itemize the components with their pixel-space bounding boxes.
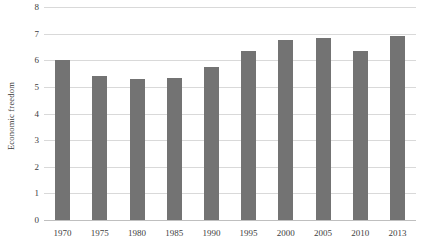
x-tick-label: 2005 bbox=[314, 229, 332, 238]
bar bbox=[92, 76, 107, 220]
y-tick-label: 7 bbox=[35, 29, 40, 38]
bar bbox=[241, 51, 256, 220]
y-tick-label: 4 bbox=[35, 109, 40, 118]
bar bbox=[316, 38, 331, 220]
bar bbox=[353, 51, 368, 220]
bar bbox=[390, 36, 405, 220]
x-tick-label: 1995 bbox=[240, 229, 258, 238]
y-axis-title: Economic freedom bbox=[0, 0, 22, 232]
x-tick-label: 1990 bbox=[202, 229, 220, 238]
plot-area: 012345678 bbox=[44, 7, 416, 220]
y-axis-title-label: Economic freedom bbox=[6, 82, 16, 150]
x-tick-label: 1985 bbox=[165, 229, 183, 238]
bars bbox=[44, 7, 416, 220]
axis-baseline: 0 bbox=[44, 220, 416, 221]
y-tick-label: 5 bbox=[35, 82, 40, 91]
x-tick-label: 2010 bbox=[351, 229, 369, 238]
x-tick-label: 2013 bbox=[388, 229, 406, 238]
y-tick-label: 3 bbox=[35, 136, 40, 145]
y-tick-label: 0 bbox=[35, 216, 40, 225]
y-tick-label: 1 bbox=[35, 189, 40, 198]
bar bbox=[55, 60, 70, 220]
y-tick-label: 6 bbox=[35, 56, 40, 65]
x-tick-label: 1970 bbox=[54, 229, 72, 238]
y-tick-label: 2 bbox=[35, 162, 40, 171]
x-axis: 1970197519801985199019952000200520102013 bbox=[44, 223, 416, 243]
bar-chart: Economic freedom 012345678 1970197519801… bbox=[0, 0, 425, 252]
y-tick-label: 8 bbox=[35, 3, 40, 12]
x-tick-label: 1980 bbox=[128, 229, 146, 238]
bar bbox=[204, 67, 219, 220]
x-tick-label: 2000 bbox=[277, 229, 295, 238]
x-tick-label: 1975 bbox=[91, 229, 109, 238]
bar bbox=[130, 79, 145, 220]
bar bbox=[167, 78, 182, 220]
bar bbox=[278, 40, 293, 220]
